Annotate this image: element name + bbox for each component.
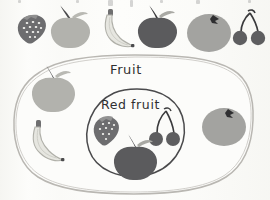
member-orange[interactable] bbox=[202, 108, 246, 146]
inner-set-label: Red fruit bbox=[101, 97, 160, 112]
orange-icon bbox=[202, 108, 246, 146]
outer-set-label: Fruit bbox=[110, 62, 142, 77]
diagram-canvas: Fruit Red fruit bbox=[0, 0, 270, 200]
